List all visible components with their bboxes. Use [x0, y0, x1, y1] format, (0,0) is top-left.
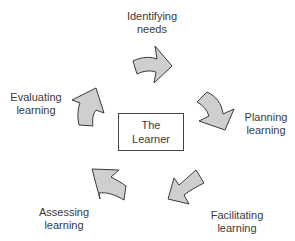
center-label-line1: The: [142, 118, 161, 132]
arrow-icon-assessing-to-evaluating: [92, 169, 126, 200]
stage-planning-learning: Planning learning: [240, 111, 292, 137]
stage-assessing-learning: Assessing learning: [36, 206, 92, 232]
stage-facilitating-learning: Facilitating learning: [207, 209, 267, 235]
arrow-icon-identifying-to-planning: [133, 46, 172, 83]
center-label-line2: Learner: [132, 132, 170, 146]
stage-label-line2: learning: [207, 222, 267, 235]
arrow-icon-evaluating-to-identifying: [72, 88, 104, 126]
stage-label-line2: learning: [8, 104, 64, 117]
stage-label-line1: Identifying: [122, 10, 182, 23]
stage-label-line1: Assessing: [36, 206, 92, 219]
stage-label-line2: learning: [240, 124, 292, 137]
stage-label-line1: Planning: [240, 111, 292, 124]
stage-label-line1: Evaluating: [8, 91, 64, 104]
arrow-icon-facilitating-to-assessing: [168, 170, 204, 204]
arrow-icon-planning-to-facilitating: [197, 92, 234, 130]
stage-label-line2: needs: [122, 23, 182, 36]
stage-identifying-needs: Identifying needs: [122, 10, 182, 36]
stage-label-line2: learning: [36, 219, 92, 232]
stage-label-line1: Facilitating: [207, 209, 267, 222]
stage-evaluating-learning: Evaluating learning: [8, 91, 64, 117]
center-learner-box: The Learner: [118, 113, 184, 151]
